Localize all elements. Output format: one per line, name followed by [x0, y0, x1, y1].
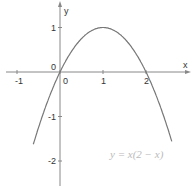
y-tick-label: -1: [48, 112, 56, 122]
y-tick-label: 1: [51, 23, 56, 33]
y-tick-label: -2: [48, 156, 56, 166]
x-axis-label: x: [183, 60, 188, 70]
y-axis: [58, 1, 62, 186]
x-tick-label: 0: [63, 76, 68, 86]
x-axis: [6, 70, 191, 74]
x-tick-label: -1: [15, 76, 23, 86]
chart: -1012-2-11 x y 0 y = x(2 − x): [0, 0, 192, 188]
x-tick-label: 1: [101, 76, 106, 86]
function-annotation: y = x(2 − x): [109, 148, 164, 161]
y-axis-label: y: [64, 6, 69, 16]
origin-label: 0: [51, 62, 56, 72]
